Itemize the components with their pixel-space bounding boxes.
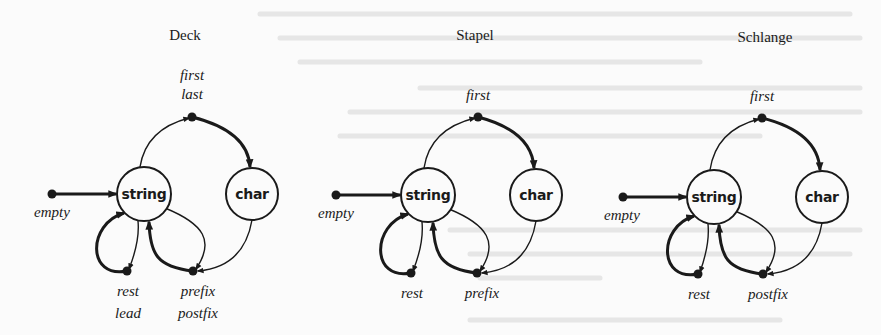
edge-right-to-string xyxy=(433,223,477,273)
right-selector-dot xyxy=(189,267,198,276)
edge-string-to-top xyxy=(710,119,759,170)
right-selector-dot xyxy=(473,269,482,278)
panel-title: Stapel xyxy=(456,27,494,43)
node-label-char: char xyxy=(519,187,553,203)
panel-title: Deck xyxy=(169,27,201,43)
panel-schlange: Schlangeemptyfirstrestpostfixstringchar xyxy=(604,29,848,302)
edge-label-postfix: postfix xyxy=(177,305,218,321)
start-dot xyxy=(332,191,341,200)
edge-string-to-right xyxy=(735,211,775,272)
edge-label-lead: lead xyxy=(115,305,141,321)
top-selector-dot xyxy=(188,113,197,122)
node-label-string: string xyxy=(692,189,737,205)
edge-label-first: first xyxy=(750,88,775,104)
edge-label-rest: rest xyxy=(401,285,424,301)
left-selector-dot xyxy=(123,267,132,276)
edge-top-to-char xyxy=(762,118,820,170)
edge-label-empty: empty xyxy=(604,207,640,223)
top-selector-dot xyxy=(474,113,483,122)
edge-label-empty: empty xyxy=(318,205,354,221)
edge-label-postfix: postfix xyxy=(747,286,788,302)
left-selector-dot xyxy=(407,269,416,278)
data-type-diagrams: Deckemptyfirstlastrestleadprefixpostfixs… xyxy=(0,0,881,335)
edge-string-to-left xyxy=(700,224,708,272)
edge-right-to-string xyxy=(719,225,763,274)
edge-label-rest: rest xyxy=(117,283,140,299)
edge-char-to-right xyxy=(768,223,822,274)
edge-string-to-right xyxy=(165,208,205,269)
edge-label-last: last xyxy=(181,86,204,102)
right-selector-dot xyxy=(759,270,768,279)
edge-string-to-right xyxy=(449,209,489,271)
edge-char-to-right xyxy=(482,221,536,273)
node-label-char: char xyxy=(805,189,839,205)
edge-label-prefix: prefix xyxy=(180,283,216,299)
edge-string-to-top xyxy=(140,118,189,167)
edge-label-rest: rest xyxy=(688,286,711,302)
edge-string-to-top xyxy=(424,118,475,168)
start-dot xyxy=(48,190,57,199)
edge-string-to-left xyxy=(413,222,422,271)
start-dot xyxy=(619,193,628,202)
edge-label-prefix: prefix xyxy=(464,285,500,301)
edge-label-first: first xyxy=(466,87,491,103)
top-selector-dot xyxy=(758,114,767,123)
edge-char-to-right xyxy=(198,220,252,271)
node-label-string: string xyxy=(122,186,167,202)
edge-top-to-char xyxy=(192,117,250,167)
left-selector-dot xyxy=(694,270,703,279)
panel-deck: Deckemptyfirstlastrestleadprefixpostfixs… xyxy=(34,27,278,321)
edge-right-to-string xyxy=(149,222,193,271)
panel-title: Schlange xyxy=(738,29,793,45)
node-label-char: char xyxy=(235,186,269,202)
node-label-string: string xyxy=(406,187,451,203)
edge-label-empty: empty xyxy=(34,204,70,220)
panel-stapel: Stapelemptyfirstrestprefixstringchar xyxy=(318,27,562,301)
edge-top-to-char xyxy=(478,117,534,168)
edge-left-to-string xyxy=(97,213,127,272)
edge-label-first: first xyxy=(180,67,205,83)
edge-left-to-string xyxy=(667,216,698,275)
edge-left-to-string xyxy=(381,214,411,274)
edge-string-to-left xyxy=(129,221,138,269)
